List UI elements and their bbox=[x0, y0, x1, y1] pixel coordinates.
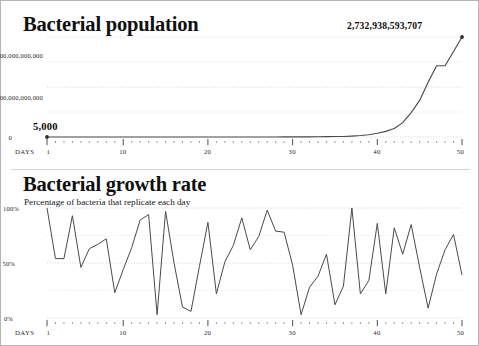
bacterial-population-chart-panel: Bacterial population 5,000 2,732,938,593… bbox=[1, 1, 479, 169]
population-line-svg bbox=[47, 37, 462, 137]
x-axis-days-label-population: DAYS bbox=[15, 148, 34, 155]
growth-plot-area bbox=[47, 208, 462, 318]
x-tick-label-growth-10: 10 bbox=[119, 329, 126, 336]
x-tick-label-population-10: 10 bbox=[119, 148, 126, 155]
population-x-axis-ticks bbox=[47, 139, 462, 148]
x-axis-days-label-growth: DAYS bbox=[15, 329, 34, 336]
x-tick-label-population-1: 1 bbox=[47, 148, 51, 155]
x-tick-label-growth-40: 40 bbox=[373, 329, 380, 336]
population-gridlines bbox=[47, 37, 462, 137]
growth-x-axis: 11020304050 bbox=[47, 320, 462, 340]
growth-gridlines bbox=[47, 208, 462, 318]
y-tick-label-population-1t: 1,000,000,000,000 bbox=[0, 94, 43, 101]
population-plot-area bbox=[47, 37, 462, 137]
x-tick-label-growth-30: 30 bbox=[289, 329, 296, 336]
page-title-population: Bacterial population bbox=[23, 13, 198, 36]
chart-subtitle-growth: Percentage of bacteria that replicate ea… bbox=[24, 197, 190, 207]
growth-line-svg bbox=[47, 208, 462, 318]
infographic-figure: Bacterial population 5,000 2,732,938,593… bbox=[0, 0, 479, 346]
growth-data-line bbox=[47, 208, 462, 315]
growth-x-axis-ticks bbox=[47, 320, 462, 329]
y-tick-label-growth-50: 50% bbox=[2, 260, 15, 267]
x-tick-label-growth-1: 1 bbox=[47, 329, 51, 336]
y-tick-label-growth-0: 0% bbox=[4, 315, 13, 322]
x-tick-label-growth-20: 20 bbox=[204, 329, 211, 336]
x-tick-label-population-40: 40 bbox=[373, 148, 380, 155]
y-tick-label-population-2t: 2,000,000,000,000 bbox=[0, 52, 43, 59]
population-x-axis: 11020304050 bbox=[47, 139, 462, 159]
x-tick-label-population-50: 50 bbox=[457, 148, 464, 155]
annotation-end-value: 2,732,938,593,707 bbox=[347, 20, 422, 31]
page-title-growth: Bacterial growth rate bbox=[23, 173, 206, 196]
y-tick-label-growth-100: 100% bbox=[3, 205, 19, 212]
x-tick-label-population-30: 30 bbox=[289, 148, 296, 155]
y-tick-label-population-0: 0 bbox=[9, 134, 12, 141]
panel-divider bbox=[11, 169, 470, 170]
x-tick-label-population-20: 20 bbox=[204, 148, 211, 155]
population-end-marker bbox=[460, 35, 464, 39]
x-tick-label-growth-50: 50 bbox=[457, 329, 464, 336]
